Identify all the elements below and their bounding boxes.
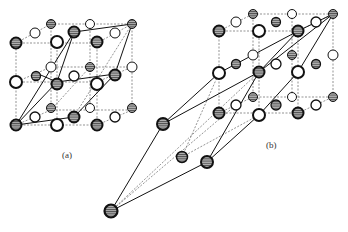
- hatched-atoms-b: [105, 10, 338, 218]
- panel-a: [10, 20, 137, 132]
- caption-b: (b): [266, 140, 277, 150]
- panel-b: [105, 10, 339, 218]
- crystal-structure-diagram: [0, 0, 348, 232]
- caption-a: (a): [62, 150, 72, 160]
